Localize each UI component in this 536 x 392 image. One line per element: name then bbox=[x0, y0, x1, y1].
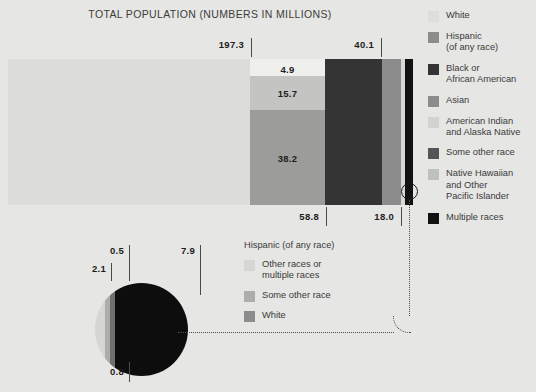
multiple-races-marker-icon bbox=[401, 183, 418, 200]
legend-label-white: White bbox=[446, 10, 470, 20]
connector-corner bbox=[393, 316, 411, 333]
bar-segment-asian bbox=[382, 59, 401, 205]
bar-segment-white bbox=[8, 59, 250, 205]
legend-label-hispanic-line2: (of any race) bbox=[446, 42, 498, 52]
legend-swatch-american-indian bbox=[428, 117, 439, 128]
tick-top-40 bbox=[381, 38, 382, 57]
legend-label-asian: Asian bbox=[446, 95, 469, 105]
legend-item-american-indian-alaska-native[interactable]: American Indian and Alaska Native bbox=[428, 116, 532, 139]
legend-label-some-other-race: Some other race bbox=[446, 147, 515, 157]
legend-label-amerindian-line1: American Indian bbox=[446, 116, 513, 126]
legend-swatch-white bbox=[428, 11, 439, 22]
pie-legend-label-other-line2: multiple races bbox=[262, 270, 319, 280]
pie-tick-79 bbox=[200, 245, 201, 295]
tick-label-18: 18.0 bbox=[346, 211, 394, 222]
legend-label-multiple-races: Multiple races bbox=[446, 212, 503, 222]
pie-body bbox=[95, 283, 188, 376]
legend-swatch-hispanic bbox=[428, 32, 439, 43]
pie-legend-label-some-other-race: Some other race bbox=[262, 290, 331, 300]
hispanic-part-some-other-race-value: 15.7 bbox=[250, 88, 325, 99]
bar-segment-hispanic: 4.9 15.7 38.2 bbox=[250, 59, 325, 205]
legend-swatch-multiple-races bbox=[428, 213, 439, 224]
pie-legend-swatch-other-races bbox=[244, 260, 255, 271]
hispanic-part-white: 38.2 bbox=[250, 110, 325, 205]
pie-legend-item-white[interactable]: White bbox=[244, 310, 364, 322]
legend-swatch-asian bbox=[428, 96, 439, 107]
tick-label-197: 197.3 bbox=[196, 39, 244, 50]
pie-tick-05 bbox=[129, 245, 130, 281]
pie-label-05: 0.5 bbox=[88, 245, 124, 256]
legend-item-hispanic[interactable]: Hispanic (of any race) bbox=[428, 31, 532, 54]
pie-legend-swatch-white bbox=[244, 311, 255, 322]
pie-legend-swatch-some-other-race bbox=[244, 291, 255, 302]
connector-vertical bbox=[409, 200, 410, 316]
legend-item-multiple-races[interactable]: Multiple races bbox=[428, 212, 532, 224]
legend-label-hawaiian-line3: Pacific Islander bbox=[446, 191, 509, 201]
pie-legend-item-other-races[interactable]: Other races or multiple races bbox=[244, 259, 364, 282]
legend-swatch-some-other-race bbox=[428, 148, 439, 159]
tick-label-58: 58.8 bbox=[271, 211, 319, 222]
hispanic-part-some-other-race: 15.7 bbox=[250, 76, 325, 110]
legend-item-asian[interactable]: Asian bbox=[428, 95, 532, 107]
bar-segment-black-african-american bbox=[325, 59, 382, 205]
pie-slice-remainder bbox=[115, 283, 188, 376]
pie-label-08: 0.8 bbox=[88, 366, 124, 377]
pie-tick-21 bbox=[111, 263, 112, 281]
hispanic-part-white-value: 38.2 bbox=[250, 152, 325, 163]
legend-label-hawaiian-line1: Native Hawaiian bbox=[446, 168, 513, 178]
legend-label-hispanic-line1: Hispanic bbox=[446, 31, 482, 41]
pie-label-79: 7.9 bbox=[159, 245, 195, 256]
pie-legend-title: Hispanic (of any race) bbox=[244, 240, 364, 250]
tick-label-40: 40.1 bbox=[326, 39, 374, 50]
pie-legend-label-other-line1: Other races or bbox=[262, 259, 321, 269]
hispanic-part-other-races-value: 4.9 bbox=[250, 64, 325, 75]
legend-item-black-african-american[interactable]: Black or African American bbox=[428, 63, 532, 86]
pie-slice-other-races bbox=[95, 283, 105, 376]
legend-swatch-black-african-american bbox=[428, 64, 439, 75]
hispanic-pie-chart bbox=[95, 283, 188, 376]
legend-label-black-line2: African American bbox=[446, 74, 516, 84]
pie-legend-label-white: White bbox=[262, 310, 286, 320]
legend-label-black-line1: Black or bbox=[446, 63, 480, 73]
legend-item-some-other-race[interactable]: Some other race bbox=[428, 147, 532, 159]
pie-tick-08 bbox=[129, 362, 130, 382]
hispanic-part-other-races: 4.9 bbox=[250, 59, 325, 76]
tick-bottom-18 bbox=[401, 207, 402, 226]
legend-item-white[interactable]: White bbox=[428, 10, 532, 22]
pie-legend: Hispanic (of any race) Other races or mu… bbox=[244, 240, 364, 330]
pie-label-21: 2.1 bbox=[70, 263, 106, 274]
connector-horizontal bbox=[178, 332, 394, 333]
page-title: TOTAL POPULATION (NUMBERS IN MILLIONS) bbox=[0, 8, 420, 20]
legend-label-hawaiian-line2: and Other bbox=[446, 180, 487, 190]
legend-swatch-native-hawaiian bbox=[428, 169, 439, 180]
legend-item-native-hawaiian-pacific-islander[interactable]: Native Hawaiian and Other Pacific Island… bbox=[428, 168, 532, 202]
tick-bottom-58 bbox=[326, 207, 327, 226]
legend-label-amerindian-line2: and Alaska Native bbox=[446, 127, 520, 137]
infographic-canvas: TOTAL POPULATION (NUMBERS IN MILLIONS) 4… bbox=[0, 0, 536, 392]
legend: White Hispanic (of any race) Black or Af… bbox=[428, 10, 532, 233]
tick-top-197 bbox=[251, 38, 252, 57]
pie-legend-item-some-other-race[interactable]: Some other race bbox=[244, 290, 364, 302]
